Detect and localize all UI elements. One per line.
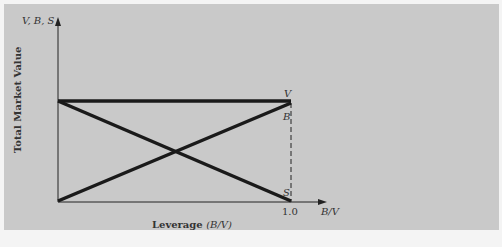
- chart: V, B, S Total Market Value V B S 1.0 B/V…: [0, 0, 502, 247]
- x-axis-title-main: Leverage: [152, 219, 206, 230]
- x-axis-end-label: B/V: [320, 206, 341, 217]
- x-tick-1: 1.0: [282, 206, 298, 217]
- label-v: V: [284, 88, 293, 99]
- label-s: S: [283, 187, 290, 198]
- x-axis-title: Leverage (B/V): [152, 219, 232, 230]
- y-axis-arrow-icon: [55, 17, 61, 26]
- x-axis-arrow-icon: [318, 199, 327, 205]
- label-b: B: [282, 111, 290, 122]
- y-axis-top-label: V, B, S: [22, 15, 55, 26]
- x-axis-title-paren: (B/V): [206, 219, 232, 230]
- y-axis-title: Total Market Value: [12, 47, 23, 153]
